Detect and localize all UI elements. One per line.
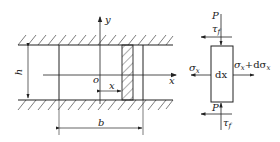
die-compression-figure: y x o x h b	[13, 14, 176, 135]
origin-label: o	[93, 74, 99, 85]
right-stress-label: σx+dσx	[234, 59, 270, 72]
bottom-pressure-label: P	[211, 102, 219, 113]
top-friction-label: τf	[212, 23, 222, 36]
element-free-body-diagram: dx P τf P τf σx σx+dσx	[189, 10, 270, 130]
top-platen-hatching	[18, 35, 173, 45]
height-label: h	[13, 69, 24, 75]
element-strip	[122, 45, 133, 100]
left-stress-label: σx	[189, 62, 200, 75]
x-axis-label: x	[169, 75, 175, 86]
top-pressure-label: P	[211, 10, 219, 21]
y-axis-label: y	[104, 14, 111, 25]
bottom-platen-hatching	[18, 100, 173, 110]
diagram-canvas: y x o x h b dx P τf P τf σx σx	[0, 0, 280, 142]
element-label: dx	[215, 69, 227, 80]
width-label: b	[98, 117, 104, 128]
bottom-friction-label: τf	[223, 117, 233, 130]
offset-label: x	[109, 80, 115, 91]
